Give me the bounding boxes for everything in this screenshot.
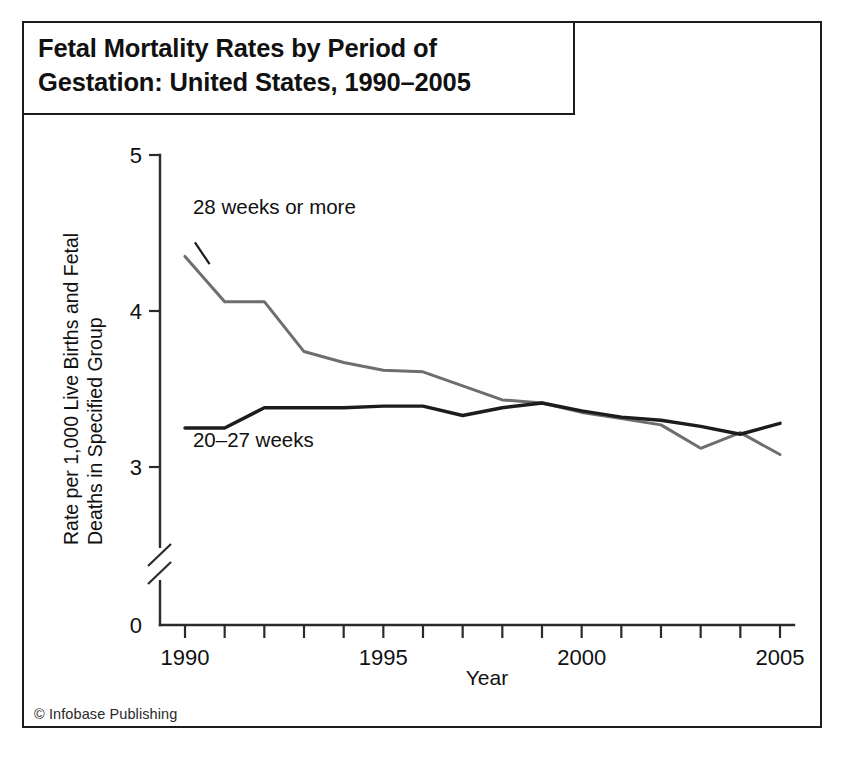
line-chart: Rate per 1,000 Live Births and Fetal Dea…	[22, 115, 822, 728]
x-tick-label: 1990	[161, 645, 210, 670]
y-tick-label-zero: 0	[130, 613, 142, 638]
x-axis-title: Year	[466, 666, 508, 689]
title-box: Fetal Mortality Rates by Period of Gesta…	[22, 21, 575, 115]
series-label-lower: 20–27 weeks	[193, 428, 314, 451]
y-tick-label: 3	[130, 455, 142, 480]
axis-break-marks	[148, 544, 171, 584]
y-axis-title: Rate per 1,000 Live Births and Fetal Dea…	[60, 233, 106, 545]
figure-container: Fetal Mortality Rates by Period of Gesta…	[0, 0, 846, 762]
y-axis-title-line1: Rate per 1,000 Live Births and Fetal	[60, 233, 82, 545]
y-tick-label: 5	[130, 143, 142, 168]
series-labels: 28 weeks or more20–27 weeks	[193, 195, 356, 450]
x-tick-label: 2000	[557, 645, 606, 670]
plot-area: Rate per 1,000 Live Births and Fetal Dea…	[22, 115, 822, 728]
page-title: Fetal Mortality Rates by Period of Gesta…	[38, 32, 559, 100]
credit-line: © Infobase Publishing	[34, 706, 177, 722]
data-series	[185, 256, 780, 454]
x-tick-label: 1995	[359, 645, 408, 670]
axes: 34501990199520002005	[130, 143, 805, 670]
y-axis-title-line2: Deaths in Specified Group	[84, 317, 106, 545]
y-tick-label: 4	[130, 299, 142, 324]
series-label-upper: 28 weeks or more	[193, 195, 356, 218]
x-tick-label: 2005	[756, 645, 805, 670]
